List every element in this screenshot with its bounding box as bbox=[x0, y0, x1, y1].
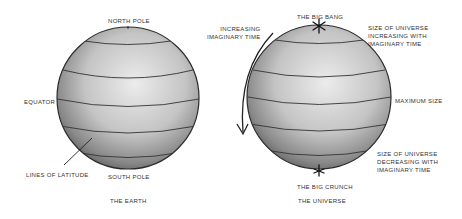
earth-caption: THE EARTH bbox=[110, 197, 147, 205]
universe-caption: THE UNIVERSE bbox=[298, 197, 346, 205]
maximum-size-label: MAXIMUM SIZE bbox=[395, 97, 443, 105]
size-decreasing-label: SIZE OF UNIVERSE DECREASING WITH IMAGINA… bbox=[377, 150, 438, 174]
increasing-imaginary-time-label: INCREASING IMAGINARY TIME bbox=[207, 25, 261, 41]
north-pole-dot bbox=[127, 27, 129, 29]
big-bang-label: THE BIG BANG bbox=[297, 13, 343, 21]
south-pole-label: SOUTH POLE bbox=[108, 173, 150, 181]
big-crunch-label: THE BIG CRUNCH bbox=[297, 183, 353, 191]
lines-of-latitude-label: LINES OF LATITUDE bbox=[26, 171, 89, 179]
equator-label: EQUATOR bbox=[24, 98, 55, 106]
north-pole-label: NORTH POLE bbox=[108, 17, 150, 25]
size-increasing-label: SIZE OF UNIVERSE INCREASING WITH IMAGINA… bbox=[368, 24, 428, 48]
earth-sphere bbox=[57, 27, 199, 170]
